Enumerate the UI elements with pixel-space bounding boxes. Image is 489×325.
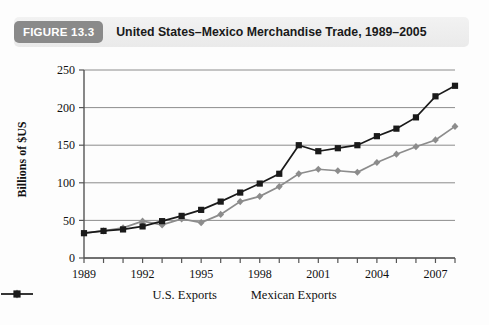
y-tick-label: 0: [69, 251, 75, 265]
axes-group: [79, 70, 455, 263]
y-tick-labels-group: 050100150200250: [57, 63, 75, 265]
data-point-marker: [218, 199, 224, 205]
y-tick-label: 100: [57, 176, 75, 190]
figure-number-badge: FIGURE 13.3: [14, 21, 103, 43]
data-point-marker: [120, 226, 126, 232]
x-tick-label: 2001: [306, 267, 330, 281]
data-point-marker: [393, 126, 399, 132]
data-point-marker: [256, 193, 263, 200]
data-point-marker: [373, 159, 380, 166]
data-point-marker: [334, 167, 341, 174]
data-point-marker: [139, 223, 145, 229]
data-point-marker: [315, 166, 322, 173]
figure-header: FIGURE 13.3 United States–Mexico Merchan…: [14, 17, 469, 47]
data-point-marker: [237, 189, 243, 195]
data-point-marker: [81, 230, 87, 236]
data-point-marker: [100, 228, 106, 234]
data-point-marker: [413, 143, 420, 150]
figure-title: United States–Mexico Merchandise Trade, …: [116, 25, 426, 39]
data-point-marker: [198, 207, 204, 213]
data-point-marker: [335, 145, 341, 151]
y-tick-label: 200: [57, 101, 75, 115]
y-tick-label: 250: [57, 63, 75, 77]
data-point-marker: [179, 213, 185, 219]
x-tick-label: 2007: [423, 267, 447, 281]
line-chart-svg: 050100150200250 198919921995199820012004…: [0, 56, 489, 286]
data-point-marker: [315, 148, 321, 154]
figure-container: FIGURE 13.3 United States–Mexico Merchan…: [0, 0, 489, 325]
data-point-marker: [296, 142, 302, 148]
legend-swatch-square-icon: [0, 288, 34, 300]
data-point-marker: [159, 218, 165, 224]
gridlines-group: [84, 70, 455, 258]
data-point-marker: [276, 171, 282, 177]
legend-item-mexican-exports: Mexican Exports: [251, 288, 337, 303]
y-tick-label: 50: [63, 214, 75, 228]
legend-label-mexican-exports: Mexican Exports: [251, 288, 337, 303]
data-point-marker: [452, 83, 458, 89]
legend-item-us-exports: U.S. Exports: [153, 288, 217, 303]
x-tick-label: 1995: [189, 267, 213, 281]
data-point-marker: [432, 93, 438, 99]
x-tick-label: 1989: [72, 267, 96, 281]
y-tick-label: 150: [57, 138, 75, 152]
series-us-exports: [81, 123, 459, 237]
x-tick-label: 1992: [131, 267, 155, 281]
chart-legend: U.S. Exports Mexican Exports: [0, 288, 489, 303]
data-point-marker: [354, 169, 361, 176]
x-tick-labels-group: 1989199219951998200120042007: [72, 267, 447, 281]
series-mexican-exports: [81, 83, 458, 237]
data-point-marker: [413, 114, 419, 120]
data-point-marker: [374, 133, 380, 139]
x-tick-label: 2004: [365, 267, 389, 281]
data-point-marker: [257, 180, 263, 186]
x-tick-label: 1998: [248, 267, 272, 281]
data-point-marker: [354, 142, 360, 148]
chart-area: Billions of $US 050100150200250 19891992…: [0, 56, 489, 325]
legend-label-us-exports: U.S. Exports: [153, 288, 217, 303]
data-point-marker: [393, 151, 400, 158]
